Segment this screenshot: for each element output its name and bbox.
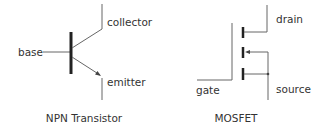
npn-base-label: base: [18, 46, 43, 58]
mosfet-gate-label: gate: [196, 84, 220, 96]
mosfet-body-arrow-icon: [245, 50, 250, 54]
mosfet-junction-dot: [267, 73, 270, 76]
npn-emitter-arrow-icon: [95, 71, 101, 76]
mosfet-source-label: source: [276, 83, 311, 95]
transistor-diagram: base collector emitter NPN Transistor dr…: [0, 0, 326, 131]
npn-emitter-label: emitter: [107, 76, 146, 88]
npn-collector-label: collector: [107, 16, 153, 28]
npn-emitter-diagonal: [72, 57, 100, 75]
mosfet-title: MOSFET: [214, 112, 258, 124]
diagram-canvas: base collector emitter NPN Transistor dr…: [0, 0, 326, 131]
npn-transistor-symbol: [43, 4, 102, 100]
npn-collector-diagonal: [72, 29, 102, 48]
npn-title: NPN Transistor: [46, 112, 123, 124]
mosfet-drain-label: drain: [276, 13, 303, 25]
